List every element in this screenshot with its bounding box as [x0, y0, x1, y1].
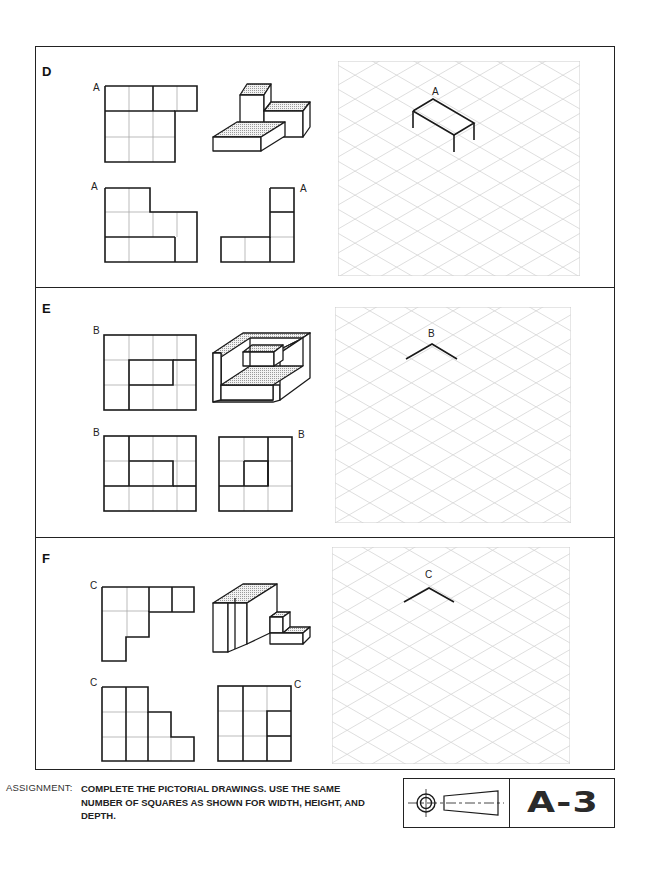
assignment-label: ASSIGNMENT:: [6, 782, 73, 793]
projection-symbol-icon: [404, 779, 509, 827]
title-block: A-3: [403, 778, 615, 828]
worksheet-page: D A A A: [0, 0, 653, 870]
sheet-number: A-3: [501, 785, 626, 819]
assignment-text: COMPLETE THE PICTORIAL DRAWINGS. USE THE…: [81, 782, 381, 823]
section-f-started-pictorial: [0, 0, 653, 870]
